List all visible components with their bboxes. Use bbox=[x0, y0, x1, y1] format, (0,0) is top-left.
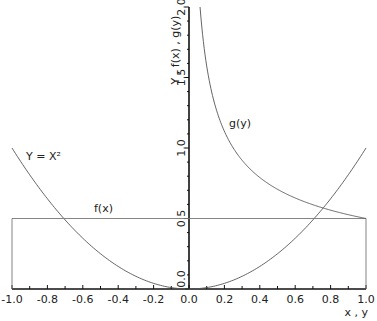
labels: x , y Y , f(x) , g(y) Y = X² f(x) g(y) bbox=[25, 16, 368, 319]
x-tick-label: -0.2 bbox=[143, 293, 164, 306]
annotation-f-x: f(x) bbox=[94, 202, 113, 215]
series-g-y bbox=[200, 7, 366, 219]
x-tick-label: 0.8 bbox=[322, 293, 340, 306]
x-tick-label: 0.4 bbox=[251, 293, 269, 306]
x-tick-label: -0.4 bbox=[107, 293, 128, 306]
x-tick-label: 0.0 bbox=[180, 293, 198, 306]
y-tick-label: 0.0 bbox=[175, 270, 188, 288]
y-tick-label: 2.0 bbox=[175, 0, 188, 16]
x-tick-label: 0.6 bbox=[286, 293, 304, 306]
y-axis-label: Y , f(x) , g(y) bbox=[169, 16, 182, 86]
annotation-parabola: Y = X² bbox=[25, 150, 61, 163]
x-tick-label: 0.2 bbox=[216, 293, 234, 306]
annotation-g-y: g(y) bbox=[229, 117, 251, 130]
chart: -1.0-0.8-0.6-0.4-0.20.00.20.40.60.81.00.… bbox=[0, 0, 377, 321]
x-tick-label: -0.8 bbox=[37, 293, 58, 306]
x-tick-label: 1.0 bbox=[357, 293, 375, 306]
x-tick-label: -1.0 bbox=[1, 293, 22, 306]
x-tick-label: -0.6 bbox=[72, 293, 93, 306]
y-tick-label: 1.0 bbox=[175, 139, 188, 157]
x-axis-label: x , y bbox=[344, 306, 368, 319]
